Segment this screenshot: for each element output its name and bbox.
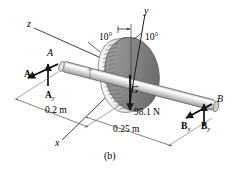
force-label-by: By <box>201 122 210 132</box>
figure-caption: (b) <box>104 151 116 161</box>
force-ax-letter: A <box>24 69 31 79</box>
force-ay-subscript: y <box>52 94 55 101</box>
angle-label-right: 10° <box>145 33 158 43</box>
force-ay-letter: A <box>45 90 52 100</box>
figure-container: z y x A B G 10° 10° Ax Ay Bx By 98.1 N 0… <box>0 0 232 171</box>
point-label-g: G <box>131 85 138 95</box>
force-label-ax: Ax <box>24 70 34 80</box>
axis-label-z: z <box>27 19 31 29</box>
point-label-a: A <box>47 48 53 58</box>
angle-leader-left <box>88 42 100 52</box>
point-label-b: B <box>217 94 223 104</box>
weight-force-label: 98.1 N <box>134 108 160 118</box>
force-ax-subscript: x <box>31 73 34 80</box>
force-by-letter: B <box>201 121 207 131</box>
center-of-gravity-marker <box>129 75 132 78</box>
force-label-bx: Bx <box>181 122 190 132</box>
angle-arc-right <box>134 34 141 40</box>
mechanics-diagram-svg <box>0 0 232 171</box>
force-label-ay: Ay <box>45 91 55 101</box>
angle-label-left: 10° <box>99 33 112 43</box>
force-by-subscript: y <box>208 125 211 132</box>
dimension-label-left: 0.2 m <box>45 106 67 116</box>
force-bx-letter: B <box>181 121 187 131</box>
dimension-label-right: 0.25 m <box>113 125 139 135</box>
axis-label-y: y <box>144 6 148 16</box>
axis-label-x: x <box>55 138 59 148</box>
force-bx-subscript: x <box>188 125 191 132</box>
